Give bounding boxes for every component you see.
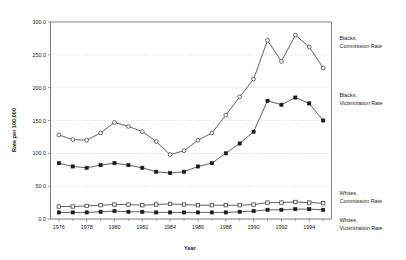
y-tick-label: 0.0 [38, 216, 46, 222]
data-point [169, 211, 172, 214]
data-point [196, 204, 199, 207]
y-tick-label: 200.0 [32, 85, 46, 91]
data-point [280, 103, 283, 106]
data-point [308, 102, 311, 105]
data-point [127, 164, 130, 167]
y-tick-label: 50.0 [35, 183, 46, 189]
data-point [252, 130, 255, 133]
data-point [294, 208, 297, 211]
data-point [155, 170, 158, 173]
x-tick-label: 1988 [220, 224, 232, 230]
data-point [182, 149, 186, 153]
data-point [210, 204, 213, 207]
data-point [85, 211, 88, 214]
series-label-3: Whites, [340, 217, 358, 223]
data-point [322, 208, 325, 211]
data-point [294, 96, 297, 99]
data-point [252, 203, 255, 206]
data-point [154, 140, 158, 144]
data-point [99, 204, 102, 207]
data-point [57, 162, 60, 165]
data-point [99, 131, 103, 135]
data-point [182, 170, 185, 173]
series-line-0 [59, 35, 323, 155]
data-point [113, 121, 117, 125]
data-point [155, 211, 158, 214]
series-label-3: Victimization Rate [340, 225, 383, 231]
data-point [196, 211, 199, 214]
series-label-1: Blacks, [340, 92, 358, 98]
data-point [224, 113, 228, 117]
data-point [280, 60, 284, 64]
data-point [321, 66, 325, 70]
data-point [168, 153, 172, 157]
series-label-2: Whites, [340, 190, 358, 196]
y-tick-labels: 0.050.0100.0150.0200.0250.0300.0 [32, 19, 46, 222]
data-point [182, 211, 185, 214]
data-point [127, 210, 130, 213]
x-tick-label: 1982 [136, 224, 148, 230]
series-label-0: Blacks, [340, 35, 358, 41]
x-tick-labels: 1976197819801982198419861988199019921994 [53, 224, 315, 230]
data-point [182, 203, 185, 206]
data-point [252, 77, 256, 81]
data-point [196, 165, 199, 168]
data-point [210, 162, 213, 165]
data-point [141, 204, 144, 207]
x-tick-label: 1986 [192, 224, 204, 230]
x-tick-label: 1980 [108, 224, 120, 230]
data-point [113, 162, 116, 165]
x-tick-label: 1990 [248, 224, 260, 230]
data-point [57, 133, 61, 137]
data-point [266, 38, 270, 42]
data-point [127, 203, 130, 206]
data-point [141, 166, 144, 169]
series-label-1: Victimization Rate [340, 100, 383, 106]
data-point [224, 211, 227, 214]
series-line-3 [59, 209, 323, 212]
series-labels: Blacks,Commission RateBlacks,Victimizati… [340, 35, 383, 231]
data-point [113, 203, 116, 206]
data-point [307, 45, 311, 49]
data-point [280, 201, 283, 204]
y-tick-label: 150.0 [32, 118, 46, 124]
data-point [196, 138, 200, 142]
x-tick-label: 1976 [53, 224, 65, 230]
x-tick-label: 1978 [81, 224, 93, 230]
data-point [238, 142, 241, 145]
data-point [266, 208, 269, 211]
data-point [113, 210, 116, 213]
x-tick-label: 1984 [164, 224, 176, 230]
data-point [238, 204, 241, 207]
data-point [308, 201, 311, 204]
data-point [155, 203, 158, 206]
data-point [57, 205, 60, 208]
x-tick-label: 1994 [303, 224, 315, 230]
data-point [71, 165, 74, 168]
data-point [224, 152, 227, 155]
data-point [85, 166, 88, 169]
data-point [294, 200, 297, 203]
data-point [238, 95, 242, 99]
data-point [85, 204, 88, 207]
data-point [252, 210, 255, 213]
series-label-0: Commission Rate [340, 43, 383, 49]
data-point [140, 130, 144, 134]
data-point [266, 201, 269, 204]
series-line-2 [59, 202, 323, 207]
data-point [99, 210, 102, 213]
data-point [169, 171, 172, 174]
data-point [210, 211, 213, 214]
x-tick-label: 1992 [275, 224, 287, 230]
line-chart: 1976197819801982198419861988199019921994… [0, 0, 406, 260]
data-point [238, 210, 241, 213]
data-point [266, 99, 269, 102]
chart-canvas: 1976197819801982198419861988199019921994… [0, 0, 406, 260]
data-point [280, 208, 283, 211]
data-point [99, 164, 102, 167]
series-markers [57, 33, 325, 214]
data-point [127, 125, 131, 129]
y-axis-title: Rate per 100,000 [11, 108, 17, 152]
y-tick-label: 100.0 [32, 150, 46, 156]
data-point [293, 33, 297, 37]
